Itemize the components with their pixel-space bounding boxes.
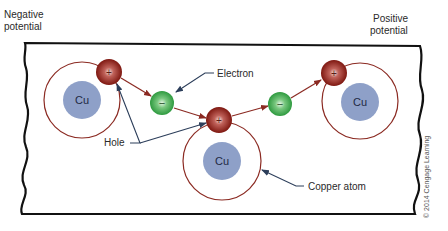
flow-arrow-electron1-to-hole2: [174, 108, 206, 118]
nucleus-label-1: Cu: [75, 94, 89, 106]
hole-leader-line-2: [140, 123, 206, 143]
hole-charge-3: +: [331, 68, 337, 79]
electron-charge-2: −: [277, 98, 283, 110]
negative-potential-line-1: Negative: [4, 9, 43, 21]
electron-label: Electron: [217, 68, 254, 80]
hole-label: Hole: [104, 137, 125, 149]
copper-atom-label: Copper atom: [308, 181, 366, 193]
copyright-notice: © 2014 Cengage Learning: [423, 136, 430, 218]
hole-charge-1: +: [106, 67, 112, 78]
electron-leader-line: [176, 73, 214, 92]
hole-charge-2: +: [216, 115, 222, 126]
nucleus-label-2: Cu: [215, 155, 229, 167]
nucleus-label-3: Cu: [353, 96, 367, 108]
negative-potential-line-2: potential: [4, 21, 43, 33]
positive-potential-line-2: potential: [370, 25, 408, 37]
flow-arrow-hole1-to-electron1: [121, 78, 151, 96]
positive-potential-label: Positive potential: [370, 13, 408, 37]
hole-leader-line-1: [117, 84, 140, 143]
flow-arrow-hole2-to-electron2: [232, 106, 268, 116]
copper-atom-leader-line: [262, 170, 304, 186]
positive-potential-line-1: Positive: [370, 13, 408, 25]
negative-potential-label: Negative potential: [4, 9, 43, 33]
electron-charge-1: −: [159, 97, 165, 109]
flow-arrow-electron2-to-hole3: [291, 80, 321, 98]
